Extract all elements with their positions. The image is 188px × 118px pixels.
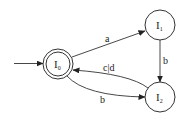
- state-I2: I2: [145, 82, 175, 112]
- transition-b-vertical-label: b: [163, 55, 168, 66]
- state-I0: I0: [43, 49, 73, 79]
- transition-b-curve-label: b: [100, 94, 105, 105]
- state-I1: I1: [145, 10, 175, 40]
- transition-b-curve-arrow: [67, 76, 145, 97]
- transition-a-label: a: [105, 33, 110, 44]
- fsa-diagram: a b c|d b I0 I1 I2: [0, 0, 188, 118]
- transition-cd-label: c|d: [103, 62, 114, 73]
